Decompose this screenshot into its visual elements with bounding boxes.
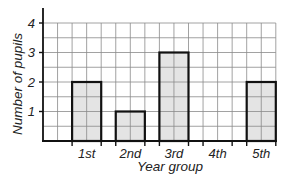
x-axis-title: Year group (137, 159, 204, 174)
y-tick-label: 4 (28, 16, 35, 31)
x-tick-label: 1st (78, 146, 97, 161)
x-tick-label: 4th (209, 146, 227, 161)
bar-chart: 1234 1st2nd3rd4th5th Number of pupils Ye… (0, 0, 297, 181)
x-tick-label: 5th (252, 146, 270, 161)
y-tick-label: 1 (28, 104, 35, 119)
y-tick-labels: 1234 (27, 16, 36, 120)
y-tick-label: 3 (28, 45, 36, 60)
y-tick-label: 2 (27, 75, 36, 90)
y-axis-title: Number of pupils (10, 33, 25, 135)
